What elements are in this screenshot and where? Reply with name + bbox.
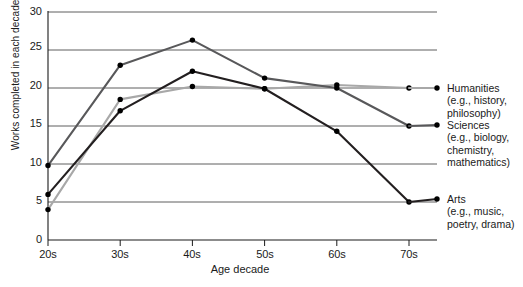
data-point-humanities-20s [45,207,50,212]
legend-item-sciences: Sciences (e.g., biology, chemistry, math… [447,119,523,169]
data-point-arts-30s [118,108,123,113]
legend-sub-arts-1: (e.g., music, [447,205,523,217]
data-point-humanities-30s [118,97,123,102]
legend-label-arts: Arts [447,193,523,205]
data-point-arts-40s [190,69,195,74]
legend-item-arts: Arts (e.g., music, poetry, drama) [447,193,523,230]
legend-sub-sciences-3: mathematics) [447,156,523,168]
legend-sub-sciences-2: chemistry, [447,144,523,156]
legend-label-humanities: Humanities [447,82,523,94]
legend-sub-sciences-1: (e.g., biology, [447,131,523,143]
series-line-humanities [48,85,409,210]
plot-area [0,0,523,287]
legend-connector-sciences [409,125,437,126]
legend-sub-humanities-2: philosophy) [447,107,523,119]
legend-label-sciences: Sciences [447,119,523,131]
data-point-arts-50s [262,86,267,91]
legend-sub-arts-2: poetry, drama) [447,218,523,230]
series-line-sciences [48,40,409,165]
data-point-sciences-30s [118,62,123,67]
data-point-sciences-60s [334,85,339,90]
series-points [45,37,411,212]
line-chart: Works completed in each decade (%) 30 25… [0,0,523,287]
legend-sub-humanities-1: (e.g., history, [447,94,523,106]
data-point-arts-20s [45,192,50,197]
legend-marker-arts [434,196,439,201]
data-point-sciences-40s [190,37,195,42]
x-axis-ticks [48,240,409,246]
data-point-humanities-40s [190,84,195,89]
data-point-sciences-20s [45,163,50,168]
legend-item-humanities: Humanities (e.g., history, philosophy) [447,82,523,119]
data-point-arts-60s [334,129,339,134]
data-point-sciences-50s [262,75,267,80]
legend-connectors [409,85,440,202]
legend-marker-sciences [434,122,439,127]
series-lines [48,40,409,209]
legend-marker-humanities [434,85,439,90]
